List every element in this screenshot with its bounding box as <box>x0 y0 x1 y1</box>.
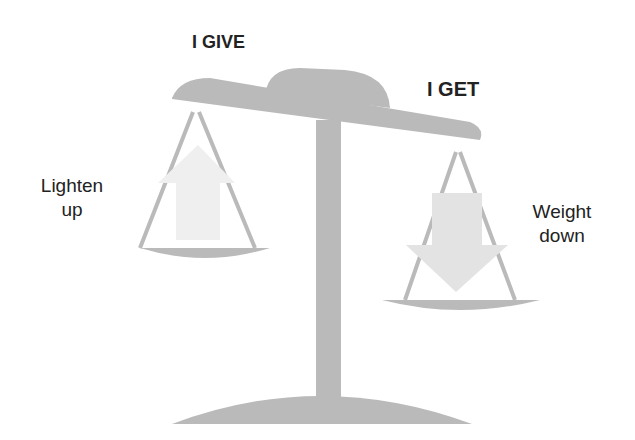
up-arrow-icon <box>158 145 235 240</box>
scale-post <box>316 120 341 400</box>
left-pan-label: Lighten up <box>32 174 112 222</box>
right-pan-label-line1: Weight <box>522 200 602 224</box>
right-pan <box>382 300 540 310</box>
left-pan-label-line1: Lighten <box>32 174 112 198</box>
left-pan <box>140 248 270 258</box>
right-pan-label: Weight down <box>522 200 602 248</box>
scale-base <box>172 396 472 424</box>
left-pan-label-line2: up <box>32 198 112 222</box>
i-give-heading: I GIVE <box>192 32 245 53</box>
right-pan-label-line2: down <box>522 224 602 248</box>
i-get-heading: I GET <box>427 78 479 101</box>
